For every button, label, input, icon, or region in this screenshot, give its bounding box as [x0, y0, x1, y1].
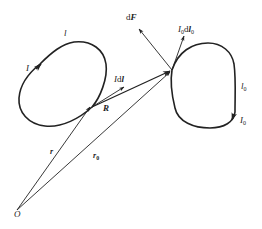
- loop-l-path-label: l: [64, 29, 67, 38]
- current-loops-diagram: l I Idl R r r0 O dF I0dl0 l0 I0: [0, 0, 262, 229]
- loop-l0-current-arrow-icon: [232, 114, 234, 120]
- loop-l0-curve: [171, 43, 235, 128]
- position-vector-r0: [17, 72, 170, 210]
- current-element0-label: I0dl0: [178, 25, 194, 35]
- separation-R-label: R: [103, 104, 109, 113]
- position-r0-label: r0: [93, 152, 99, 161]
- force-vector-dF: [139, 29, 172, 70]
- current-element-label: Idl: [114, 75, 124, 84]
- origin-label: O: [14, 210, 21, 219]
- diagram-drawing: [0, 0, 262, 229]
- position-vector-r: [17, 107, 90, 210]
- loop-l0-path-label: l0: [241, 82, 247, 92]
- force-dF-label: dF: [126, 13, 137, 22]
- separation-vector-R: [92, 71, 170, 107]
- loop-l-curve: [19, 42, 106, 127]
- position-r-label: r: [50, 148, 53, 156]
- loop-l0-current-label: I0: [240, 116, 246, 126]
- loop-l-current-label: I: [26, 64, 29, 73]
